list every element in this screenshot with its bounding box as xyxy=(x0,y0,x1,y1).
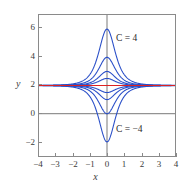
x-tick-mark xyxy=(107,153,108,157)
x-tick-mark xyxy=(159,153,160,157)
y-tick-mark xyxy=(38,27,42,28)
x-tick-label: 3 xyxy=(152,160,166,169)
x-tick-label: −3 xyxy=(48,160,62,169)
y-tick-label: −2 xyxy=(19,138,35,147)
y-tick-label: 0 xyxy=(19,109,35,118)
x-tick-mark xyxy=(38,153,39,157)
x-tick-mark xyxy=(90,153,91,157)
y-tick-mark xyxy=(38,113,42,114)
annotation-c-negative: C = −4 xyxy=(116,124,143,134)
chart-figure: 6 4 2 0 −2 −4 −3 −2 −1 0 1 2 3 4 y x C =… xyxy=(0,0,191,188)
x-tick-label: 1 xyxy=(117,160,131,169)
x-tick-label: −2 xyxy=(66,160,80,169)
x-tick-mark xyxy=(55,153,56,157)
x-tick-label: 4 xyxy=(169,160,183,169)
x-tick-label: −1 xyxy=(83,160,97,169)
y-tick-mark xyxy=(38,84,42,85)
x-tick-mark xyxy=(73,153,74,157)
y-tick-label: 4 xyxy=(19,52,35,61)
y-tick-mark xyxy=(38,56,42,57)
y-tick-label: 6 xyxy=(19,23,35,32)
x-tick-label: −4 xyxy=(31,160,45,169)
y-tick-mark xyxy=(38,142,42,143)
x-tick-mark xyxy=(124,153,125,157)
plot-area xyxy=(38,14,176,157)
x-tick-label: 0 xyxy=(100,160,114,169)
y-axis-title: y xyxy=(16,79,20,89)
x-tick-mark xyxy=(142,153,143,157)
annotation-c-positive: C = 4 xyxy=(116,33,137,43)
x-axis-title: x xyxy=(0,172,191,182)
curves-svg xyxy=(39,15,175,156)
x-tick-label: 2 xyxy=(135,160,149,169)
x-tick-mark xyxy=(176,153,177,157)
y-tick-label: 2 xyxy=(19,80,35,89)
